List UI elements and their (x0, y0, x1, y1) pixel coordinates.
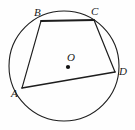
center-label-o: O (67, 52, 75, 63)
chord-AD (22, 72, 115, 88)
vertex-label-d: D (119, 66, 127, 77)
chord-CD (94, 20, 115, 72)
vertex-label-b: B (34, 7, 41, 18)
geometry-canvas (0, 0, 135, 130)
geometry-figure: O A B C D (0, 0, 135, 130)
vertex-label-c: C (91, 6, 98, 17)
chord-BC (41, 20, 94, 21)
chord-AB (22, 21, 41, 88)
vertex-label-a: A (11, 88, 18, 99)
circumscribed-circle (9, 11, 119, 121)
center-point-dot (66, 65, 70, 69)
